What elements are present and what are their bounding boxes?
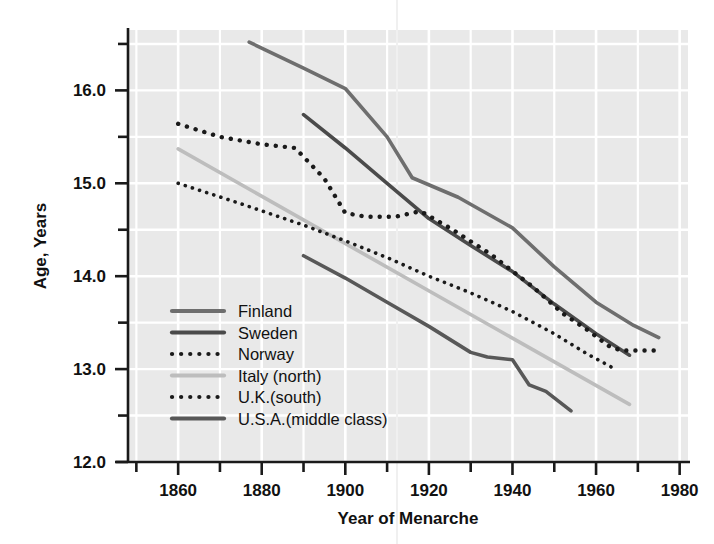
- legend-label-norway: Norway: [238, 345, 295, 363]
- y-axis-tick-label: 12.0: [73, 453, 106, 472]
- y-axis-tick-label: 16.0: [73, 81, 106, 100]
- legend-label-italy-north: Italy (north): [238, 367, 321, 385]
- x-axis-tick-label: 1860: [159, 481, 197, 500]
- x-axis-tick-label: 1940: [494, 481, 532, 500]
- x-axis-tick-label: 1960: [577, 481, 615, 500]
- y-axis-title: Age, Years: [31, 203, 50, 290]
- y-axis-tick-label: 13.0: [73, 360, 106, 379]
- x-axis-tick-label: 1880: [243, 481, 281, 500]
- y-axis-tick-label: 15.0: [73, 174, 106, 193]
- chart-figure: 12.013.014.015.016.018601880190019201940…: [0, 0, 714, 544]
- legend-label-u-k-south: U.K.(south): [238, 388, 321, 406]
- x-axis-title: Year of Menarche: [338, 509, 479, 528]
- legend-label-u-s-a-middle-class: U.S.A.(middle class): [238, 410, 387, 428]
- x-axis-tick-label: 1980: [661, 481, 699, 500]
- y-axis-tick-label: 14.0: [73, 267, 106, 286]
- menarche-age-line-chart: 12.013.014.015.016.018601880190019201940…: [0, 0, 714, 544]
- plot-background: [128, 30, 688, 462]
- x-axis-tick-label: 1900: [326, 481, 364, 500]
- legend-label-sweden: Sweden: [238, 324, 298, 342]
- x-axis-tick-label: 1920: [410, 481, 448, 500]
- legend-label-finland: Finland: [238, 302, 292, 320]
